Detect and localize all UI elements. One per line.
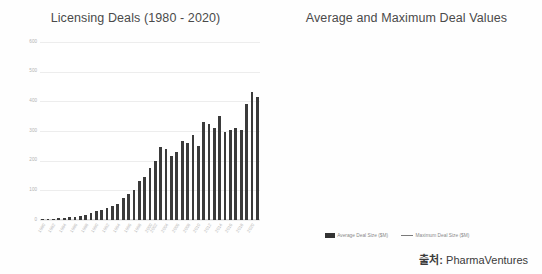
bar: [170, 156, 173, 220]
x-axis-tick-2014: 2014: [215, 223, 224, 234]
bar: [106, 208, 109, 220]
bar: [159, 147, 162, 220]
bar: [138, 181, 141, 220]
bar: [149, 168, 152, 220]
x-axis-tick-1990: 1990: [91, 223, 100, 234]
x-axis-tick-1996: 1996: [123, 223, 132, 234]
legend-item-average[interactable]: Average Deal Size ($M): [325, 233, 388, 238]
y-axis-tick-left-400: 400: [29, 99, 37, 104]
y-axis-tick-left-100: 100: [29, 188, 37, 193]
x-axis-tick-2020: 2020: [247, 223, 256, 234]
bar: [111, 206, 114, 220]
x-axis-tick-2006: 2006: [172, 223, 181, 234]
x-axis-tick-1998: 1998: [134, 223, 143, 234]
chart-panel-deal-values: Average and Maximum Deal Values 05010015…: [271, 0, 542, 250]
bar: [208, 124, 211, 220]
bar: [229, 130, 232, 220]
chart-title-deal-values: Average and Maximum Deal Values: [271, 11, 542, 25]
chart-legend: Average Deal Size ($M) Maximum Deal Size…: [302, 233, 492, 238]
bar: [116, 204, 119, 220]
bar: [84, 215, 87, 220]
x-axis-tick-2012: 2012: [204, 223, 213, 234]
slide-canvas: Licensing Deals (1980 - 2020) 0100200300…: [0, 0, 542, 274]
chart-title-licensing-deals: Licensing Deals (1980 - 2020): [0, 11, 271, 25]
bar: [47, 219, 50, 220]
legend-item-maximum[interactable]: Maximum Deal Size ($M): [401, 233, 469, 238]
bar: [100, 210, 103, 220]
y-axis-tick-left-300: 300: [29, 129, 37, 134]
bar: [186, 143, 189, 220]
bar: [57, 218, 60, 220]
y-axis-tick-left-200: 200: [29, 158, 37, 163]
x-axis-tick-1986: 1986: [70, 223, 79, 234]
x-axis-tick-1994: 1994: [113, 223, 122, 234]
bar: [63, 218, 66, 220]
bar: [122, 198, 125, 220]
x-axis-tick-2018: 2018: [236, 223, 245, 234]
bar: [41, 219, 44, 220]
bar: [181, 141, 184, 220]
source-attribution: 출처: PharmaVentures: [419, 251, 528, 267]
bar: [240, 130, 243, 220]
bar: [202, 122, 205, 220]
x-axis-tick-2008: 2008: [182, 223, 191, 234]
bar: [154, 161, 157, 220]
legend-label-maximum: Maximum Deal Size ($M): [416, 233, 470, 238]
x-axis-tick-2004: 2004: [161, 223, 170, 234]
bar: [234, 128, 237, 220]
bar: [127, 194, 130, 220]
x-axis-tick-2002: 2002: [150, 223, 159, 234]
bar: [133, 190, 136, 220]
gridline: [40, 220, 260, 221]
bar: [213, 128, 216, 220]
x-axis-tick-1984: 1984: [59, 223, 68, 234]
charts-container: Licensing Deals (1980 - 2020) 0100200300…: [0, 0, 542, 250]
bar: [68, 217, 71, 220]
x-axis-tick-2010: 2010: [193, 223, 202, 234]
bar: [90, 213, 93, 220]
bar: [95, 211, 98, 220]
bar: [197, 146, 200, 220]
source-value: PharmaVentures: [446, 254, 528, 266]
x-axis-tick-1980: 1980: [37, 223, 46, 234]
bar: [251, 92, 254, 220]
source-label: 출처:: [419, 254, 443, 266]
plot-area-licensing-deals: 0100200300400500600198019821984198619881…: [40, 42, 260, 220]
bar: [218, 116, 221, 220]
y-axis-tick-left-500: 500: [29, 69, 37, 74]
legend-label-average: Average Deal Size ($M): [337, 233, 388, 238]
bar: [79, 216, 82, 220]
y-axis-tick-left-0: 0: [34, 218, 37, 223]
chart-panel-licensing-deals: Licensing Deals (1980 - 2020) 0100200300…: [0, 0, 271, 250]
legend-line-swatch-icon: [401, 235, 413, 237]
bar-series: [40, 42, 260, 220]
bar: [74, 217, 77, 220]
bar: [256, 97, 259, 220]
bar: [192, 135, 195, 220]
bar: [52, 219, 55, 220]
x-axis-tick-1988: 1988: [80, 223, 89, 234]
y-axis-tick-left-600: 600: [29, 40, 37, 45]
bar: [245, 104, 248, 220]
bar: [143, 177, 146, 220]
bar: [175, 152, 178, 220]
bar: [165, 149, 168, 220]
x-axis-tick-2016: 2016: [225, 223, 234, 234]
x-axis-tick-1992: 1992: [102, 223, 111, 234]
x-axis-tick-1982: 1982: [48, 223, 57, 234]
legend-bar-swatch-icon: [325, 233, 335, 238]
bar: [224, 132, 227, 220]
